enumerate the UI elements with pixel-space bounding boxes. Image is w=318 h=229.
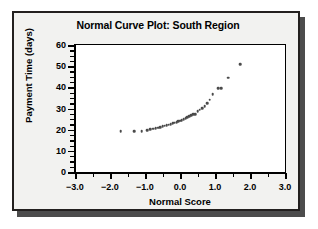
x-axis-minor-tick (128, 173, 129, 177)
y-axis-tick-label: 60 (40, 40, 66, 50)
y-axis-minor-tick (70, 77, 75, 78)
data-point (120, 130, 123, 133)
y-axis-tick-label: 0 (40, 167, 66, 177)
y-axis-title: Payment Time (days) (23, 11, 34, 141)
y-axis-tick-label: 40 (40, 82, 66, 92)
y-axis-minor-tick (70, 140, 75, 141)
x-axis-tick (250, 173, 252, 179)
y-axis-tick (68, 109, 75, 111)
x-axis-minor-tick (198, 173, 199, 177)
x-axis-tick-label: −1.0 (125, 182, 165, 192)
y-axis-tick (68, 66, 75, 68)
x-axis-tick-label: −2.0 (90, 182, 130, 192)
x-axis-tick (75, 173, 77, 179)
screenshot-root: Normal Curve Plot: South Region 01020304… (0, 0, 318, 229)
x-axis-tick (180, 173, 182, 179)
figure-card: Normal Curve Plot: South Region 01020304… (12, 11, 300, 211)
y-axis-minor-tick (70, 124, 75, 125)
y-axis-minor-tick (70, 50, 75, 51)
x-axis-tick (285, 173, 287, 179)
x-axis-minor-tick (233, 173, 234, 177)
data-point (141, 130, 144, 133)
data-point (212, 93, 215, 96)
y-axis-tick (68, 45, 75, 47)
x-axis-tick-label: 3.0 (265, 182, 305, 192)
y-axis-minor-tick (70, 167, 75, 168)
y-axis-minor-tick (70, 98, 75, 99)
y-axis-minor-tick (70, 161, 75, 162)
x-axis-tick (145, 173, 147, 179)
data-point (220, 87, 223, 90)
data-point (133, 130, 136, 133)
y-axis-minor-tick (70, 56, 75, 57)
y-axis-minor-tick (70, 146, 75, 147)
y-axis-minor-tick (70, 93, 75, 94)
data-point (203, 105, 206, 108)
y-axis-minor-tick (70, 61, 75, 62)
y-axis-minor-tick (70, 103, 75, 104)
y-axis-minor-tick (70, 119, 75, 120)
y-axis-minor-tick (70, 114, 75, 115)
y-axis-tick-label: 30 (40, 104, 66, 114)
x-axis-minor-tick (93, 173, 94, 177)
data-point (208, 99, 211, 102)
data-point (239, 63, 242, 66)
y-axis-tick-label: 50 (40, 61, 66, 71)
x-axis-minor-tick (163, 173, 164, 177)
x-axis-title: Normal Score (74, 196, 286, 207)
y-axis-minor-tick (70, 82, 75, 83)
x-axis-minor-tick (268, 173, 269, 177)
scatter-plot-area (75, 45, 285, 172)
x-axis-tick-label: 0.0 (160, 182, 200, 192)
x-axis-tick (215, 173, 217, 179)
y-axis-tick (68, 87, 75, 89)
x-axis-tick-label: 1.0 (195, 182, 235, 192)
x-axis-tick-label: 2.0 (230, 182, 270, 192)
y-axis-minor-tick (70, 71, 75, 72)
y-axis-minor-tick (70, 135, 75, 136)
y-axis-tick (68, 130, 75, 132)
data-point (194, 113, 197, 116)
y-axis-tick (68, 151, 75, 153)
y-axis-tick-label: 20 (40, 125, 66, 135)
x-axis-tick-label: −3.0 (55, 182, 95, 192)
data-point (227, 77, 230, 80)
y-axis-minor-tick (70, 156, 75, 157)
data-point (206, 102, 209, 105)
x-axis-tick (110, 173, 112, 179)
y-axis-tick-label: 10 (40, 146, 66, 156)
